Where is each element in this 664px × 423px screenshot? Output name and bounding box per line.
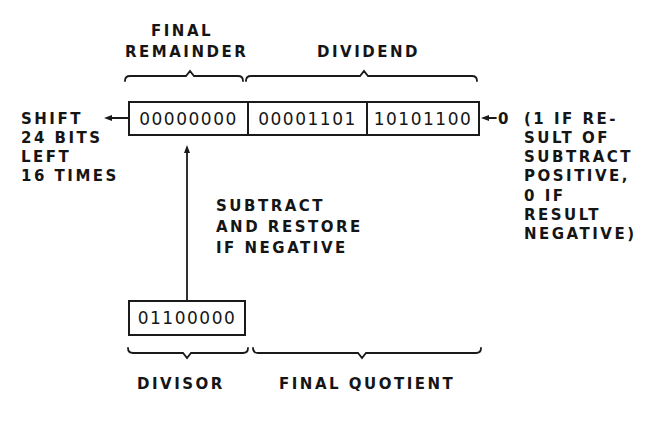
bit-in-arrowhead-icon [481, 115, 489, 121]
subtract-arrowhead-icon [184, 145, 190, 153]
brace-divisor [128, 348, 248, 358]
shift-out-arrowhead-icon [104, 115, 112, 121]
brace-dividend [246, 71, 477, 81]
diagram-lines [0, 0, 664, 423]
brace-final-quotient [253, 348, 481, 358]
brace-final-remainder [125, 71, 243, 81]
